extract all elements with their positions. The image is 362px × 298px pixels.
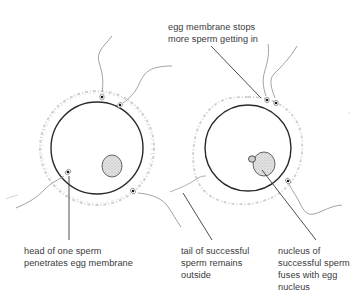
leader-line-tail <box>183 193 212 240</box>
jelly-coat <box>40 91 154 205</box>
jelly-coat <box>193 97 302 204</box>
sperm <box>130 187 181 227</box>
right-egg <box>170 44 350 240</box>
label-tail-outside: tail of successful sperm remains outside <box>181 245 249 281</box>
leader-line-top <box>211 46 261 98</box>
label-head-penetrates: head of one sperm penetrates egg membran… <box>24 245 133 269</box>
label-membrane-blocks: egg membrane stops more sperm getting in <box>168 21 258 45</box>
egg-membrane <box>51 102 143 194</box>
blocked-sperm <box>263 44 269 103</box>
blocked-sperm <box>271 46 297 106</box>
sperm <box>285 177 342 214</box>
successful-sperm-tail <box>170 176 206 192</box>
sperm-nucleus <box>249 156 256 162</box>
sperm <box>98 36 112 100</box>
egg-nucleus <box>102 155 122 177</box>
egg-membrane <box>205 105 291 191</box>
left-egg <box>6 36 181 240</box>
sperm <box>117 66 172 109</box>
penetrating-sperm <box>16 168 72 208</box>
label-nucleus-fuses: nucleus of successful sperm fuses with e… <box>278 245 350 293</box>
